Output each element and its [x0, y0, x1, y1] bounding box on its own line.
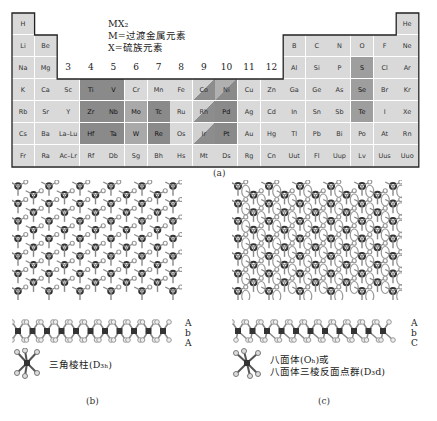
trigonal-prism-icon — [12, 348, 46, 380]
formula-title: MX₂ — [108, 18, 186, 30]
formula-legend: MX₂ M=过渡金属元素 X=硫族元素 — [108, 18, 186, 54]
group-number-4: 4 — [80, 62, 102, 72]
structure-1t-side-view — [232, 318, 402, 344]
caption-a: (a) — [213, 168, 225, 178]
caption-c: (c) — [318, 396, 330, 406]
group-number-7: 7 — [148, 62, 170, 72]
structure-2h-top-view — [12, 180, 182, 300]
formula-metal-def: M=过渡金属元素 — [108, 30, 186, 42]
group-number-8: 8 — [170, 62, 192, 72]
periodic-table: HHeLiBeBCNOFNeNaMgAlSiPSClArKCaScTiVCrMn… — [0, 0, 437, 175]
formula-chalcogen-def: X=硫族元素 — [108, 42, 186, 54]
group-number-12: 12 — [261, 62, 283, 72]
group-number-5: 5 — [102, 62, 124, 72]
group-number-10: 10 — [215, 62, 237, 72]
group-number-6: 6 — [125, 62, 147, 72]
stacking-b: A b A — [185, 318, 192, 348]
caption-b: (b) — [86, 396, 99, 406]
octahedron-icon — [232, 348, 266, 380]
group-number-3: 3 — [57, 62, 79, 72]
group-number-11: 11 — [238, 62, 260, 72]
stacking-c: A b C — [411, 318, 418, 348]
coordination-label-c: 八面体(Oₕ)或 八面体三棱反面点群(D₃d) — [270, 354, 385, 378]
group-number-9: 9 — [193, 62, 215, 72]
structure-1t-top-view — [232, 180, 402, 300]
structure-2h-side-view — [12, 318, 187, 344]
coordination-label-b: 三角棱柱(D₃ₕ) — [49, 360, 112, 370]
